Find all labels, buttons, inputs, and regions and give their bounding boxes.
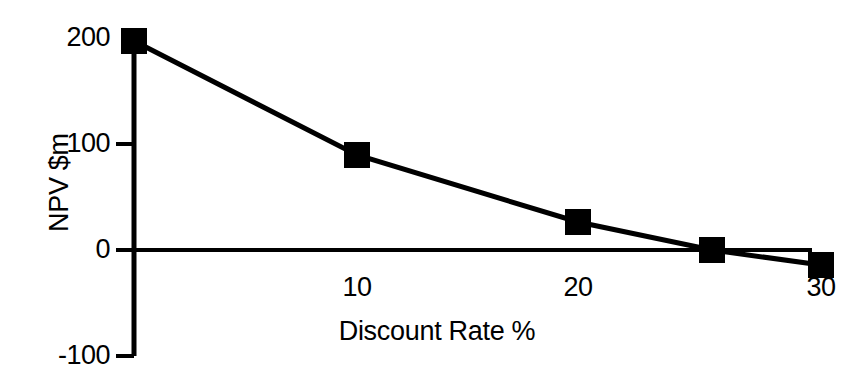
y-tick-label-200: 200 bbox=[30, 24, 110, 51]
y-tick-label-minus-100: -100 bbox=[14, 342, 110, 369]
data-point-marker bbox=[565, 209, 591, 235]
x-tick-label-20: 20 bbox=[538, 274, 618, 301]
y-tick-label-0: 0 bbox=[30, 236, 110, 263]
data-point-marker bbox=[699, 237, 725, 263]
data-point-marker bbox=[121, 28, 147, 54]
x-axis-title: Discount Rate % bbox=[277, 318, 597, 345]
x-tick-label-10: 10 bbox=[317, 274, 397, 301]
y-axis-title: NPV $m bbox=[46, 133, 73, 232]
data-point-marker bbox=[344, 142, 370, 168]
x-tick-label-30: 30 bbox=[781, 274, 861, 301]
npv-series-line bbox=[134, 41, 821, 265]
npv-discount-rate-chart: 200 100 0 -100 10 20 30 NPV $m Discount … bbox=[0, 0, 863, 387]
